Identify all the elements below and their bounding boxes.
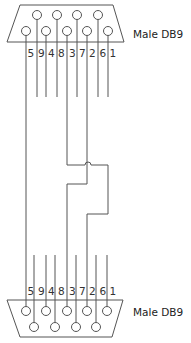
top-pin-label: 7 (79, 47, 86, 59)
top-pin-3-socket (63, 27, 72, 36)
top-pin-label: 9 (38, 47, 45, 59)
top-pin-4-socket (42, 27, 51, 36)
bottom-pin-5-socket (22, 307, 31, 316)
bottom-pin-label: 7 (79, 285, 86, 297)
top-pin-2-socket (83, 27, 92, 36)
bottom-pin-label: 4 (48, 285, 55, 297)
bottom-pin-label: 2 (89, 285, 96, 297)
top-pin-6-socket (94, 11, 103, 20)
top-pin-label: 8 (58, 47, 65, 59)
top-connector-shell (7, 5, 124, 42)
bottom-pin-label: 8 (58, 285, 65, 297)
bottom-pin-8-socket (51, 323, 60, 332)
null-modem-diagram: 5 9 4 8 3 7 2 6 1 Male DB9 5 9 4 8 3 7 2 (0, 0, 191, 343)
bottom-pin-6-socket (92, 323, 101, 332)
top-connector: 5 9 4 8 3 7 2 6 1 Male DB9 (7, 5, 183, 97)
top-connector-label: Male DB9 (133, 28, 183, 40)
bottom-pin-label: 3 (69, 285, 76, 297)
bottom-connector-label: Male DB9 (133, 306, 183, 318)
top-pin-9-socket (33, 11, 42, 20)
bottom-pin-label: 9 (38, 285, 45, 297)
bottom-pin-label: 6 (100, 285, 107, 297)
bottom-pin-4-socket (42, 307, 51, 316)
top-pin-label: 2 (89, 47, 96, 59)
top-pin-label: 3 (69, 47, 76, 59)
top-pin-label: 5 (28, 47, 35, 59)
top-pin-label: 4 (48, 47, 55, 59)
top-pin-label: 6 (100, 47, 107, 59)
bottom-pin-9-socket (30, 323, 39, 332)
bottom-connector: 5 9 4 8 3 7 2 6 1 Male DB9 (7, 255, 183, 337)
top-pin-7-socket (73, 11, 82, 20)
bottom-pin-1-socket (103, 307, 112, 316)
top-pin-1-socket (104, 27, 113, 36)
top-pin-8-socket (53, 11, 62, 20)
bottom-pin-label: 1 (110, 285, 117, 297)
top-pin-5-socket (22, 27, 31, 36)
bottom-pin-label: 5 (28, 285, 35, 297)
bottom-pin-3-socket (63, 307, 72, 316)
bottom-pin-7-socket (72, 323, 81, 332)
bottom-pin-2-socket (83, 307, 92, 316)
bottom-connector-shell (7, 300, 123, 337)
top-pin-label: 1 (110, 47, 117, 59)
